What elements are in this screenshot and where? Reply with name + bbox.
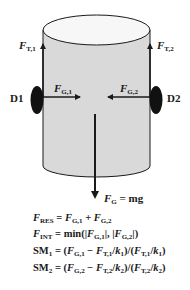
eq4-s1: G,2 (74, 267, 85, 275)
d1-label: D1 (10, 93, 23, 104)
eq4-F1: F (67, 262, 74, 273)
eq1-F: F (33, 212, 40, 223)
eq3-a: = ( (52, 245, 67, 256)
eq4-d: )/( (124, 262, 134, 273)
eq3-s3: T,1 (141, 250, 150, 258)
eq2-F1: F (87, 228, 94, 239)
eq3-s1: G,1 (74, 250, 85, 258)
eq1-sub: RES (40, 217, 54, 225)
eq3-F3: F (134, 245, 141, 256)
cylinder-top (43, 15, 150, 45)
fg2-label: FG,2 (120, 83, 138, 96)
eq4-F3: F (134, 262, 141, 273)
eq4-s3: T,2 (141, 267, 150, 275)
fg2-subscript: G,2 (127, 88, 138, 96)
eq2-sub: INT (40, 233, 52, 241)
eq1-eq: = (54, 212, 65, 223)
digit-d2-disc (150, 86, 163, 114)
ft1-subscript: T,1 (26, 45, 35, 53)
equation-sm1: SM1 = (FG,1 − FT,1/k1)/(FT,1/k1) (33, 246, 166, 258)
digit-d1-disc (31, 86, 44, 114)
eq3-F2: F (96, 245, 103, 256)
eq3-f: ) (162, 245, 166, 256)
eq3-SM: SM (33, 245, 49, 256)
eq1-F2: F (94, 212, 101, 223)
equation-sm2: SM2 = (FG,2 − FT,2/k2)/(FT,2/k2) (33, 263, 166, 275)
eq4-SM: SM (33, 262, 49, 273)
eq2-end: |) (132, 228, 138, 239)
equation-fint: FINT = min(|FG,1|, |FG,2|) (33, 229, 138, 241)
fg1-subscript: G,1 (61, 88, 72, 96)
fg1-label: FG,1 (54, 83, 72, 96)
eq3-s2: T,1 (103, 250, 112, 258)
eq1-plus: + (83, 212, 94, 223)
eq1-G1: G,1 (72, 217, 83, 225)
d2-label: D2 (167, 93, 180, 104)
eq2-eq: = min(| (52, 228, 87, 239)
eq2-F: F (33, 228, 40, 239)
ft2-subscript: T,2 (164, 45, 173, 53)
eq2-mid: |, | (105, 228, 115, 239)
eq3-d: )/( (124, 245, 134, 256)
ft1-label: FT,1 (19, 40, 36, 53)
fg-weight-label: FG = mg (104, 193, 143, 206)
eq1-G2: G,2 (101, 217, 112, 225)
eq1-F1: F (65, 212, 72, 223)
cylinder-body (43, 30, 150, 177)
eq4-a: = ( (52, 262, 67, 273)
eq3-b: − (85, 245, 96, 256)
eq4-f: ) (162, 262, 166, 273)
eq3-F1: F (67, 245, 74, 256)
equation-fres: FRES = FG,1 + FG,2 (33, 213, 112, 225)
eq4-b: − (85, 262, 96, 273)
eq4-s2: T,2 (103, 267, 112, 275)
eq4-F2: F (96, 262, 103, 273)
ft2-label: FT,2 (157, 40, 174, 53)
eq2-G2: G,2 (122, 233, 133, 241)
eq2-G1: G,1 (94, 233, 105, 241)
eq2-F2: F (115, 228, 122, 239)
fg-rhs: = mg (117, 192, 143, 204)
